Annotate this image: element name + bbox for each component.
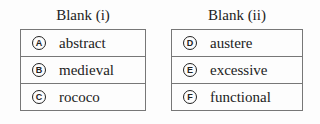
circle-f-icon: F	[183, 90, 197, 104]
option-b[interactable]: B medieval	[21, 56, 145, 83]
blank-i-options: A abstract B medieval C rococo	[20, 29, 146, 111]
circle-c-icon: C	[32, 90, 46, 104]
option-text: abstract	[59, 35, 106, 52]
circle-b-icon: B	[32, 63, 46, 77]
option-a[interactable]: A abstract	[21, 30, 145, 56]
option-text: functional	[210, 89, 271, 106]
option-e[interactable]: E excessive	[172, 56, 302, 83]
option-text: rococo	[59, 89, 100, 106]
circle-a-icon: A	[32, 36, 46, 50]
option-f[interactable]: F functional	[172, 83, 302, 110]
blank-ii-column: Blank (ii) D austere E excessive F funct…	[171, 0, 303, 111]
option-text: medieval	[59, 62, 114, 79]
blank-ii-options: D austere E excessive F functional	[171, 29, 303, 111]
option-c[interactable]: C rococo	[21, 83, 145, 110]
blank-ii-header: Blank (ii)	[171, 0, 303, 29]
blank-i-header: Blank (i)	[20, 0, 146, 29]
circle-d-icon: D	[183, 36, 197, 50]
option-text: austere	[210, 35, 252, 52]
option-d[interactable]: D austere	[172, 30, 302, 56]
blank-i-column: Blank (i) A abstract B medieval C rococo	[20, 0, 146, 111]
circle-e-icon: E	[183, 63, 197, 77]
option-text: excessive	[210, 62, 267, 79]
